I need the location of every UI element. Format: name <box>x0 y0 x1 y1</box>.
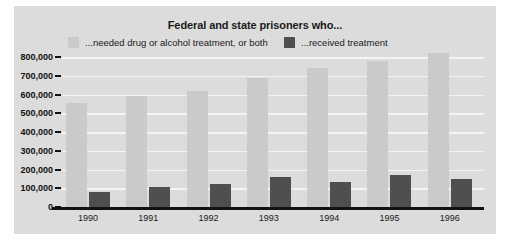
bar-group <box>66 57 110 207</box>
y-axis-tick-label: 200,000 <box>20 165 53 175</box>
y-axis-tick-mark <box>55 131 61 133</box>
x-axis-tick-label: 1992 <box>179 213 239 223</box>
legend-swatch-received-treatment <box>284 37 295 48</box>
bar-needed-treatment <box>428 53 449 207</box>
y-axis-tick-label: 600,000 <box>20 90 53 100</box>
y-axis-tick-label: 400,000 <box>20 127 53 137</box>
y-axis-tick-label: 800,000 <box>20 52 53 62</box>
y-axis-tick-mark <box>55 75 61 77</box>
y-axis-tick-label: 300,000 <box>20 146 53 156</box>
y-axis-tick-mark <box>55 150 61 152</box>
legend-label-needed-treatment: ...needed drug or alcohol treatment, or … <box>85 37 268 48</box>
bar-received-treatment <box>330 182 351 207</box>
x-axis-tick-label: 1995 <box>359 213 419 223</box>
y-axis-tick-label: 500,000 <box>20 108 53 118</box>
bar-group <box>187 57 231 207</box>
bar-group <box>247 57 291 207</box>
bar-received-treatment <box>210 184 231 207</box>
y-axis-tick-mark <box>55 94 61 96</box>
bar-needed-treatment <box>367 61 388 207</box>
bar-group <box>307 57 351 207</box>
x-axis-tick-label: 1991 <box>118 213 178 223</box>
y-axis-tick-mark <box>55 112 61 114</box>
x-axis-tick-label: 1996 <box>420 213 480 223</box>
bar-received-treatment <box>451 179 472 207</box>
y-axis-tick-label: 100,000 <box>20 183 53 193</box>
x-axis-line <box>52 207 484 210</box>
legend-label-received-treatment: ...received treatment <box>301 37 388 48</box>
x-axis-tick-label: 1994 <box>299 213 359 223</box>
chart-figure: Federal and state prisoners who... ...ne… <box>0 0 510 243</box>
chart-panel: Federal and state prisoners who... ...ne… <box>14 6 496 234</box>
bar-needed-treatment <box>126 96 147 207</box>
bar-received-treatment <box>89 192 110 207</box>
plot-area: 0100,000200,000300,000400,000500,000600,… <box>62 57 484 207</box>
legend-swatch-needed-treatment <box>68 37 79 48</box>
x-axis-tick-label: 1990 <box>58 213 118 223</box>
bar-received-treatment <box>270 177 291 207</box>
y-axis-tick-label: 700,000 <box>20 71 53 81</box>
bar-needed-treatment <box>66 103 87 207</box>
chart-title: Federal and state prisoners who... <box>14 19 496 31</box>
bar-group <box>126 57 170 207</box>
legend-item-needed-treatment: ...needed drug or alcohol treatment, or … <box>68 35 268 49</box>
y-axis-tick-mark <box>55 169 61 171</box>
chart-legend: ...needed drug or alcohol treatment, or … <box>68 35 468 49</box>
bar-received-treatment <box>149 187 170 207</box>
x-axis-tick-label: 1993 <box>239 213 299 223</box>
bar-group <box>428 57 472 207</box>
bar-needed-treatment <box>247 78 268 207</box>
bar-needed-treatment <box>187 91 208 207</box>
legend-item-received-treatment: ...received treatment <box>284 35 388 49</box>
bar-needed-treatment <box>307 68 328 207</box>
bar-received-treatment <box>390 175 411 207</box>
y-axis-tick-mark <box>55 187 61 189</box>
bar-group <box>367 57 411 207</box>
y-axis-tick-mark <box>55 56 61 58</box>
